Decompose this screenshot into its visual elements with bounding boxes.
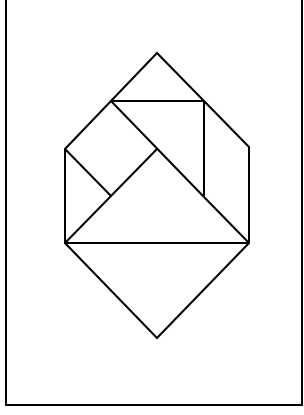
hexagon-outline bbox=[65, 53, 249, 338]
frame-border bbox=[6, 0, 302, 405]
tangram-diagram bbox=[0, 0, 304, 415]
internal-lines bbox=[65, 101, 249, 243]
large-triangle-right-edge bbox=[204, 197, 249, 243]
square-bottom-left-edge bbox=[65, 149, 111, 196]
